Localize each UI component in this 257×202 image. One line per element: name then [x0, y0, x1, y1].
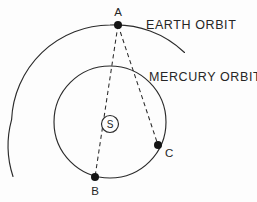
- point-c-dot: [154, 141, 162, 149]
- orbit-diagram: S A B C EARTH ORBIT MERCURY ORBIT: [0, 0, 257, 202]
- mercury-orbit-label: MERCURY ORBIT: [149, 70, 257, 84]
- sight-line-a-b: [95, 25, 118, 177]
- point-a-label: A: [114, 6, 122, 18]
- point-b-dot: [91, 173, 99, 181]
- point-b-label: B: [91, 185, 99, 197]
- earth-orbit-arc: [8, 25, 184, 177]
- earth-orbit-label: EARTH ORBIT: [146, 18, 236, 32]
- point-a-dot: [114, 21, 122, 29]
- point-c-label: C: [165, 147, 173, 159]
- sun-label: S: [107, 119, 114, 130]
- diagram-canvas: S A B C EARTH ORBIT MERCURY ORBIT: [0, 0, 257, 202]
